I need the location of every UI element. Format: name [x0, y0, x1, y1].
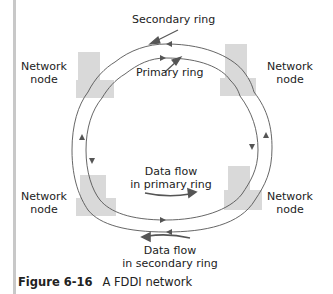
node-label-line: Network: [266, 60, 314, 73]
flow-label-line: Data flow: [126, 165, 216, 178]
figure-caption: Figure 6-16A FDDI network: [18, 275, 192, 289]
network-node-bottom-left: [76, 175, 116, 216]
node-label-line: Network: [20, 60, 68, 73]
figure-title: A FDDI network: [102, 275, 192, 289]
secondary-ring-callout-arrow: [150, 30, 178, 44]
secondary-flow-label: Data flow in secondary ring: [120, 244, 220, 270]
network-node-top-left: [76, 52, 114, 98]
node-label-line: node: [20, 73, 68, 86]
flow-label-line: in primary ring: [126, 178, 216, 191]
network-node-top-right: [220, 44, 256, 96]
secondary-flow-arrow: [142, 233, 190, 241]
node-label-top-right: Network node: [266, 60, 314, 86]
network-node-bottom-right: [224, 166, 262, 210]
node-label-line: Network: [20, 190, 68, 203]
secondary-ring-label: Secondary ring: [132, 13, 215, 26]
node-label-line: node: [266, 73, 314, 86]
figure-number: Figure 6-16: [18, 275, 92, 289]
node-label-line: Network: [266, 190, 314, 203]
node-label-bottom-right: Network node: [266, 190, 314, 216]
node-label-bottom-left: Network node: [20, 190, 68, 216]
node-label-line: node: [266, 203, 314, 216]
flow-label-line: Data flow: [120, 244, 220, 257]
node-label-line: node: [20, 203, 68, 216]
node-label-top-left: Network node: [20, 60, 68, 86]
primary-flow-label: Data flow in primary ring: [126, 165, 216, 191]
flow-label-line: in secondary ring: [120, 257, 220, 270]
primary-ring-label: Primary ring: [136, 66, 204, 79]
